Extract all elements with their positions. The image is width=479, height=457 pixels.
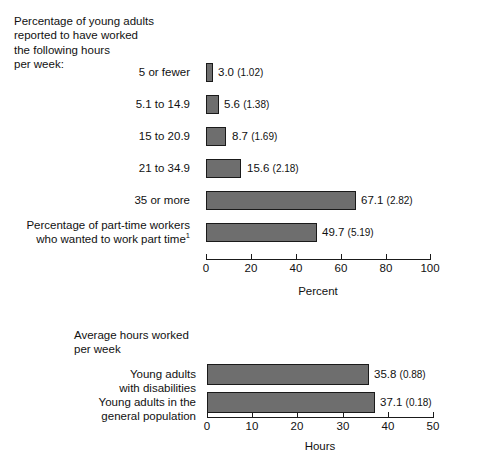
- bottom-chart-tick-0: [207, 412, 208, 417]
- bottom-chart-category-label-0: Young adults with disabilities: [44, 368, 196, 395]
- top-chart-tick-0: [206, 254, 207, 259]
- top-chart-tick-label-3: 60: [321, 262, 361, 274]
- top-chart-value-label-2: 8.7 (1.69): [232, 130, 277, 142]
- bottom-chart-tick-label-2: 20: [277, 420, 317, 432]
- chart-canvas: Percentage of young adults reported to h…: [0, 0, 479, 457]
- top-chart-tick-3: [341, 254, 342, 259]
- bottom-chart-tick-1: [252, 412, 253, 417]
- top-chart-value-label-3: 15.6 (2.18): [247, 162, 299, 174]
- bottom-chart-title: Average hours worked per week: [74, 328, 189, 357]
- top-chart-category-label-0: 5 or fewer: [24, 66, 190, 80]
- top-chart-category-label-2: 15 to 20.9: [24, 130, 190, 144]
- bottom-chart-x-axis: [207, 417, 434, 418]
- top-chart-category-label-5: Percentage of part-time workers who want…: [14, 219, 190, 246]
- top-chart-tick-label-1: 20: [231, 262, 271, 274]
- top-chart-value-label-5: 49.7 (5.19): [322, 226, 374, 238]
- top-chart-tick-2: [296, 254, 297, 259]
- footnote-marker: 1: [186, 231, 190, 240]
- top-chart-tick-4: [386, 254, 387, 259]
- bottom-chart-tick-4: [388, 412, 389, 417]
- bottom-chart-y-axis: [0, 198, 1, 253]
- bottom-chart-tick-label-0: 0: [187, 420, 227, 432]
- top-chart-bar-4: [206, 191, 356, 210]
- top-chart-category-label-4: 35 or more: [24, 194, 190, 208]
- top-chart-bar-0: [206, 63, 213, 82]
- top-chart-bar-1: [206, 95, 219, 114]
- bottom-chart-value-label-0: 35.8 (0.88): [374, 368, 426, 380]
- top-chart-tick-label-5: 100: [410, 262, 450, 274]
- top-chart-tick-label-0: 0: [186, 262, 226, 274]
- top-chart-value-label-1: 5.6 (1.38): [224, 98, 269, 110]
- top-chart-y-axis: [0, 0, 1, 198]
- bottom-chart-x-axis-title: Hours: [270, 440, 370, 452]
- top-chart-category-label-1: 5.1 to 14.9: [24, 98, 190, 112]
- bottom-chart-tick-label-4: 40: [368, 420, 408, 432]
- top-chart-value-label-4: 67.1 (2.82): [361, 194, 413, 206]
- bottom-chart-tick-2: [297, 412, 298, 417]
- bottom-chart-tick-5: [433, 412, 434, 417]
- top-chart-bar-3: [206, 159, 241, 178]
- bottom-chart-tick-label-1: 10: [232, 420, 272, 432]
- top-chart-tick-label-2: 40: [276, 262, 316, 274]
- bottom-chart-bar-0: [207, 364, 369, 385]
- bottom-chart-value-label-1: 37.1 (0.18): [380, 396, 432, 408]
- top-chart-x-axis-title: Percent: [268, 285, 368, 297]
- bottom-chart-bar-1: [207, 392, 375, 413]
- top-chart-category-label-3: 21 to 34.9: [24, 162, 190, 176]
- top-chart-x-axis: [206, 259, 431, 260]
- top-chart-tick-5: [430, 254, 431, 259]
- top-chart-bar-5: [206, 223, 317, 242]
- bottom-chart-category-label-1: Young adults in the general population: [44, 396, 196, 423]
- bottom-chart-tick-label-3: 30: [323, 420, 363, 432]
- top-chart-bar-2: [206, 127, 226, 146]
- top-chart-title: Percentage of young adults reported to h…: [14, 14, 154, 72]
- top-chart-tick-1: [251, 254, 252, 259]
- bottom-chart-tick-3: [343, 412, 344, 417]
- top-chart-tick-label-4: 80: [366, 262, 406, 274]
- bottom-chart-tick-label-5: 50: [413, 420, 453, 432]
- top-chart-category-label-5-text: Percentage of part-time workers who want…: [26, 219, 190, 245]
- top-chart-value-label-0: 3.0 (1.02): [218, 66, 263, 78]
